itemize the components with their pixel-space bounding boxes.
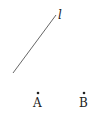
line-l: [13, 15, 56, 73]
line-label: l: [58, 8, 62, 22]
point-b-label: B: [79, 96, 88, 110]
point-b: [83, 92, 86, 95]
point-a: [37, 92, 40, 95]
diagram-canvas: l A B: [0, 0, 100, 115]
point-a-label: A: [32, 96, 42, 110]
